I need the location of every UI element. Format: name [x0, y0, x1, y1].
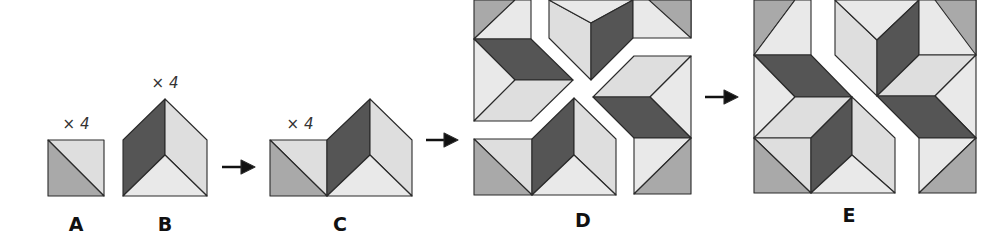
- quilt-diagram: × 4 × 4 × 4 A B C D E: [0, 0, 993, 243]
- label-b: B: [158, 215, 172, 234]
- label-e: E: [843, 206, 856, 225]
- multiplier-c: × 4: [287, 117, 314, 132]
- label-d: D: [575, 211, 591, 230]
- arrow-right-icon: [705, 90, 738, 104]
- label-a: A: [69, 215, 84, 234]
- label-c: C: [333, 215, 347, 234]
- multiplier-a: × 4: [63, 117, 90, 132]
- arrow-right-icon: [222, 160, 255, 174]
- quilt-shapes: [48, 0, 976, 196]
- arrow-right-icon: [426, 133, 458, 147]
- multiplier-b: × 4: [152, 76, 179, 91]
